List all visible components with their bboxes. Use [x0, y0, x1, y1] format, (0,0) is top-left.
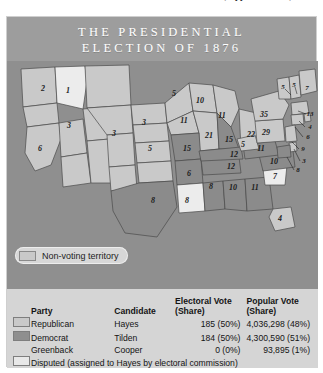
swatch-cell-greenback	[13, 344, 31, 356]
state-arizona	[61, 153, 91, 187]
state-value-new-jersey: 9	[301, 146, 305, 153]
header-electoral-line1: Electoral Vote	[175, 296, 240, 306]
state-florida	[269, 207, 295, 231]
table-header-row: Party Candidate Electoral Vote (Share) P…	[13, 295, 310, 317]
disputed-note: Disputed (assigned to Hayes by electoral…	[31, 355, 310, 369]
table-row: Democrat Tilden 184 (50%) 4,300,590 (51%…	[13, 330, 310, 344]
state-value-oregon: 2	[41, 85, 45, 93]
state-value-tennessee: 12	[227, 163, 235, 171]
state-maryland	[277, 145, 291, 158]
state-value-indiana: 15	[225, 136, 233, 144]
state-value-idaho: 1	[66, 87, 70, 95]
header-popular-line1: Popular Vote	[246, 296, 310, 306]
electoral-republican: 185 (50%)	[175, 317, 246, 331]
state-value-massachusetts: 13	[307, 111, 314, 118]
state-value-georgia: 11	[251, 184, 259, 192]
figure-frame: THE PRESIDENTIAL ELECTION OF 1876	[6, 16, 317, 367]
state-idaho	[55, 66, 87, 109]
state-mississippi	[203, 181, 225, 211]
state-value-virginia: 11	[257, 145, 265, 153]
figure-title-band: THE PRESIDENTIAL ELECTION OF 1876	[7, 17, 316, 61]
state-california	[25, 123, 61, 171]
state-value-wisconsin: 10	[196, 97, 204, 105]
state-texas	[111, 181, 177, 237]
state-montana	[85, 65, 131, 108]
state-value-california: 6	[38, 145, 42, 153]
results-table: Party Candidate Electoral Vote (Share) P…	[13, 295, 310, 369]
greenback-swatch-icon	[13, 345, 28, 353]
candidate-hayes: Hayes	[114, 317, 175, 331]
popular-greenback: 93,895 (1%)	[246, 344, 310, 356]
us-map: 2 1 3 6 3 3 5 5 11 10 11 21 15 22 15 6 8…	[7, 61, 318, 289]
state-nevada	[59, 119, 87, 157]
header-popular-line2: (Share)	[246, 306, 310, 316]
table-row: Greenback Cooper 0 (0%) 93,895 (1%)	[13, 344, 310, 356]
disputed-swatch-icon	[13, 356, 30, 366]
state-value-kentucky: 12	[230, 151, 238, 159]
state-value-colorado: 3	[112, 130, 116, 138]
header-electoral-line2: (Share)	[175, 306, 240, 316]
state-value-louisiana: 8	[185, 197, 189, 205]
election-map-figure: tion, Appointment to, and C THE PRESIDEN…	[0, 0, 323, 373]
header-swatch-spacer	[13, 295, 31, 317]
swatch-cell-republican	[13, 317, 31, 331]
party-democrat: Democrat	[31, 330, 114, 344]
electoral-democrat: 184 (50%)	[175, 330, 246, 344]
header-electoral-vote: Electoral Vote (Share)	[175, 295, 246, 317]
state-washington-territory	[21, 67, 57, 107]
state-connecticut	[291, 114, 304, 125]
party-republican: Republican	[31, 317, 114, 331]
state-value-florida: 4	[278, 215, 282, 223]
state-value-new-york: 35	[260, 111, 268, 119]
democrat-swatch-icon	[13, 331, 30, 341]
state-nebraska	[133, 123, 169, 143]
state-louisiana	[177, 183, 205, 213]
figure-title-line2: ELECTION OF 1876	[7, 41, 316, 56]
state-kansas	[135, 141, 171, 163]
nonvoting-territory-label: Non-voting territory	[42, 251, 119, 261]
state-value-south-carolina: 7	[273, 173, 277, 181]
nonvoting-territory-legend: Non-voting territory	[15, 247, 128, 264]
state-value-missouri: 15	[183, 145, 191, 153]
state-value-connecticut: 6	[306, 134, 310, 141]
state-value-minnesota: 5	[172, 90, 176, 98]
popular-republican: 4,036,298 (48%)	[246, 317, 310, 331]
swatch-cell-democrat	[13, 330, 31, 344]
results-table-area: Party Candidate Electoral Vote (Share) P…	[7, 289, 318, 368]
state-value-mississippi: 8	[209, 183, 213, 191]
republican-swatch-icon	[13, 317, 30, 327]
state-value-north-carolina: 10	[270, 158, 278, 166]
popular-democrat: 4,300,590 (51%)	[246, 330, 310, 344]
state-value-nevada: 3	[67, 122, 71, 130]
page-text-fragment: tion, Appointment to, and C	[0, 0, 323, 10]
figure-title-line1: THE PRESIDENTIAL	[7, 25, 316, 40]
header-popular-vote: Popular Vote (Share)	[246, 295, 310, 317]
state-pennsylvania	[255, 119, 285, 143]
state-colorado	[107, 133, 135, 167]
state-value-texas: 8	[151, 197, 155, 205]
state-dakota-territory	[131, 103, 167, 125]
state-value-pennsylvania: 29	[262, 129, 270, 137]
state-value-ohio: 22	[247, 131, 255, 139]
header-candidate: Candidate	[114, 295, 175, 317]
state-value-iowa: 11	[180, 117, 188, 125]
state-value-vermont: 5	[281, 84, 285, 91]
state-value-arkansas: 6	[187, 170, 191, 178]
candidate-tilden: Tilden	[114, 330, 175, 344]
state-value-illinois: 21	[205, 132, 213, 140]
electoral-greenback: 0 (0%)	[175, 344, 246, 356]
table-row: Republican Hayes 185 (50%) 4,036,298 (48…	[13, 317, 310, 331]
state-indian-territory	[137, 161, 173, 183]
state-value-nebraska: 3	[142, 119, 146, 127]
state-value-west-virginia: 5	[241, 141, 245, 149]
state-value-delaware: 3	[302, 158, 306, 165]
state-value-alabama: 10	[229, 184, 237, 192]
state-value-michigan: 11	[218, 112, 226, 120]
party-greenback: Greenback	[31, 344, 114, 356]
nonvoting-swatch-icon	[19, 251, 36, 261]
table-note-row: Disputed (assigned to Hayes by electoral…	[13, 355, 310, 369]
header-party: Party	[31, 295, 114, 317]
state-value-maryland: 8	[296, 167, 300, 174]
candidate-cooper: Cooper	[114, 344, 175, 356]
state-value-maine: 7	[305, 85, 309, 92]
